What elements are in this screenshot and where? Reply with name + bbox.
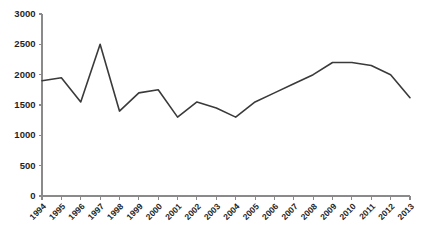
x-tick-label: 2006	[260, 201, 281, 222]
x-tick-label: 2003	[202, 201, 223, 222]
x-tick-label: 2000	[144, 201, 165, 222]
line-chart: 0500100015002000250030001994199519961997…	[0, 0, 423, 235]
y-tick-label: 3000	[14, 8, 35, 19]
x-tick-label: 2013	[395, 201, 416, 222]
x-tick-label: 1994	[27, 201, 48, 222]
x-tick-label: 2005	[241, 201, 262, 222]
y-tick-label: 2500	[14, 38, 35, 49]
y-tick-label: 1000	[14, 129, 35, 140]
x-tick-label: 2011	[357, 201, 377, 221]
y-tick-label: 1500	[14, 99, 35, 110]
x-tick-label: 1997	[86, 201, 107, 222]
x-tick-label: 2004	[221, 201, 242, 222]
x-tick-label: 2010	[337, 201, 358, 222]
x-tick-label: 2007	[279, 201, 300, 222]
x-tick-label: 1996	[66, 201, 87, 222]
chart-canvas: 0500100015002000250030001994199519961997…	[0, 0, 423, 235]
x-tick-label: 1995	[47, 201, 68, 222]
y-axis-ticks: 050010001500200025003000	[14, 8, 42, 201]
x-tick-label: 1998	[105, 201, 126, 222]
x-tick-label: 1999	[124, 201, 145, 222]
y-tick-label: 0	[30, 190, 35, 201]
x-tick-label: 2012	[376, 201, 397, 222]
y-tick-label: 500	[20, 160, 36, 171]
x-tick-label: 2009	[318, 201, 339, 222]
y-tick-label: 2000	[14, 69, 35, 80]
x-tick-label: 2001	[163, 201, 184, 222]
series-line-1	[42, 44, 410, 117]
x-tick-label: 2008	[299, 201, 320, 222]
x-tick-label: 2002	[182, 201, 203, 222]
axes-group	[42, 14, 410, 196]
x-axis-ticks: 1994199519961997199819992000200120022003…	[27, 196, 416, 222]
series-group	[42, 44, 410, 117]
